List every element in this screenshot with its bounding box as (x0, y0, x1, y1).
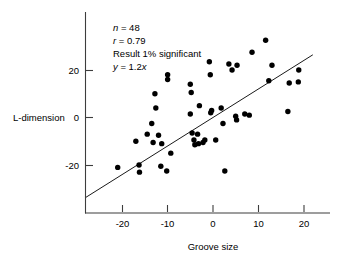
annotation-r-value: = 0.79 (116, 35, 145, 46)
data-point (234, 117, 239, 122)
data-point (222, 168, 227, 173)
x-axis-title: Groove size (188, 241, 239, 252)
data-point (213, 137, 218, 142)
annotation-equation: y = 1.2x (112, 61, 148, 72)
data-point (189, 130, 194, 135)
data-point (188, 111, 193, 116)
x-tick-label-0: 0 (210, 218, 215, 229)
data-point (285, 109, 290, 114)
data-point (149, 121, 154, 126)
data-point (226, 61, 231, 66)
annotation-r: r = 0.79 (113, 35, 146, 46)
annotation-n: n = 48 (113, 22, 140, 33)
data-point (165, 72, 170, 77)
data-point (136, 162, 141, 167)
annotation-block: n = 48 r = 0.79 Result 1% significant y … (112, 22, 202, 72)
data-point (189, 90, 194, 95)
data-point (137, 169, 142, 174)
annotation-significance: Result 1% significant (113, 48, 202, 59)
data-point (115, 165, 120, 170)
annotation-eq-mid: = 1.2 (118, 61, 142, 72)
x-tick-label-10: 10 (253, 218, 264, 229)
y-tick-label-0: 0 (74, 112, 79, 123)
data-point (152, 91, 157, 96)
data-point (296, 79, 301, 84)
data-point (247, 112, 252, 117)
data-point (269, 63, 274, 68)
data-point (249, 49, 254, 54)
scatter-plot-figure: 20 0 -20 -20 -10 0 10 20 L-dimension Gro… (0, 0, 349, 262)
data-point (164, 168, 169, 173)
data-point (209, 108, 214, 113)
data-point (229, 67, 234, 72)
regression-line (86, 55, 313, 198)
data-point (207, 59, 212, 64)
data-point (263, 38, 268, 43)
data-point (266, 78, 271, 83)
data-point (153, 105, 158, 110)
y-axis-title: L-dimension (13, 112, 65, 123)
data-point (220, 121, 225, 126)
data-point (133, 139, 138, 144)
data-point (191, 137, 196, 142)
chart-canvas: 20 0 -20 -20 -10 0 10 20 L-dimension Gro… (0, 0, 349, 262)
data-point (218, 105, 223, 110)
x-tick-label-20: 20 (299, 218, 310, 229)
annotation-n-value: = 48 (118, 22, 139, 33)
data-point (242, 111, 247, 116)
data-point (158, 163, 163, 168)
y-axis-ticks: 20 0 -20 (65, 65, 93, 171)
y-tick-label-20: 20 (68, 65, 79, 76)
data-point (296, 67, 301, 72)
data-point (145, 131, 150, 136)
data-point (202, 137, 207, 142)
data-point (159, 141, 164, 146)
data-point (150, 140, 155, 145)
x-tick-label-neg20: -20 (116, 218, 130, 229)
data-point (234, 63, 239, 68)
data-point (195, 131, 200, 136)
x-axis-ticks: -20 -10 0 10 20 (116, 205, 310, 229)
annotation-x-symbol: x (141, 61, 148, 72)
data-point (197, 103, 202, 108)
data-point (156, 133, 161, 138)
data-point (196, 141, 201, 146)
data-point (188, 82, 193, 87)
data-point (168, 150, 173, 155)
y-tick-label-neg20: -20 (65, 160, 79, 171)
data-point (208, 72, 213, 77)
data-point (287, 80, 292, 85)
data-point (165, 77, 170, 82)
x-tick-label-neg10: -10 (161, 218, 175, 229)
